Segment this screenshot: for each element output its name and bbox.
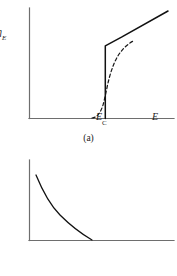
chart-b-solid-curve (36, 175, 92, 240)
chart-a-dashed-curve (92, 41, 134, 119)
chart-a-solid-curve (105, 11, 168, 119)
chart-a-y-axis-label: ηE (0, 27, 6, 37)
chart-panel-b: ϵ EC EF (b) (0, 148, 177, 276)
chart-panel-a: ηE EC E (a) (0, 0, 177, 155)
figure-root: ηE EC E (a) ϵ EC EF (b) (0, 0, 177, 276)
chart-a-xtick-label-ec: EC (96, 112, 107, 122)
chart-b-plot-area (0, 148, 177, 276)
chart-a-caption: (a) (0, 133, 177, 143)
chart-a-x-axis-label: E (152, 112, 158, 122)
chart-a-plot-area (0, 0, 177, 155)
